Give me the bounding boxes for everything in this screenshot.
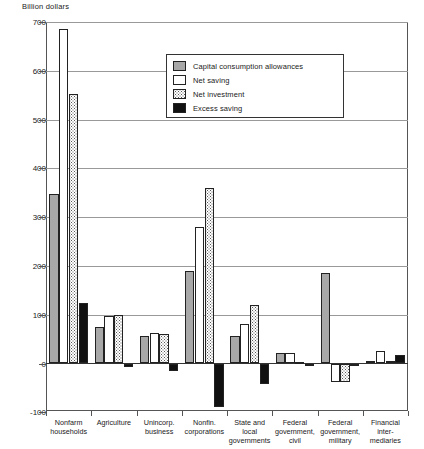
x-axis-tick-mark bbox=[318, 411, 319, 416]
bar bbox=[350, 364, 359, 366]
x-axis-tick-mark bbox=[227, 411, 228, 416]
bar bbox=[140, 336, 149, 364]
legend-item-capital-consumption-allowances: Capital consumption allowances bbox=[173, 59, 343, 73]
bar bbox=[305, 364, 314, 366]
bar bbox=[159, 334, 168, 363]
bar bbox=[150, 333, 159, 364]
y-axis-tick-mark bbox=[39, 266, 46, 267]
x-axis-labels-group: Nonfarm householdsAgricultureUnincorp. b… bbox=[46, 418, 408, 449]
bar bbox=[240, 324, 249, 363]
bar bbox=[230, 336, 239, 364]
y-axis-tick-mark bbox=[39, 71, 46, 72]
y-axis-tick-mark bbox=[39, 22, 46, 23]
bar bbox=[49, 194, 58, 363]
bar bbox=[185, 271, 194, 364]
bar bbox=[321, 273, 330, 363]
bar bbox=[366, 361, 375, 363]
x-axis-tick-mark bbox=[137, 411, 138, 416]
bar bbox=[386, 361, 395, 363]
bar bbox=[205, 188, 214, 364]
y-axis-tick-mark bbox=[39, 364, 46, 365]
x-axis-category-label: Financial inter- mediaries bbox=[359, 418, 412, 445]
y-axis-tick-mark bbox=[39, 168, 46, 169]
bar bbox=[169, 364, 178, 371]
bar bbox=[95, 327, 104, 364]
legend-label: Capital consumption allowances bbox=[193, 62, 303, 71]
legend-swatch-icon-net-saving bbox=[173, 75, 186, 85]
y-axis-tick-mark bbox=[39, 412, 46, 413]
legend-swatch-icon-excess-saving bbox=[173, 103, 186, 113]
x-axis-tick-mark bbox=[91, 411, 92, 416]
chart-legend: Capital consumption allowances Net savin… bbox=[166, 54, 344, 118]
x-axis-tick-mark bbox=[46, 411, 47, 416]
bar bbox=[104, 316, 113, 363]
legend-item-excess-saving: Excess saving bbox=[173, 101, 343, 115]
savings-investment-bar-chart: Billion dollars -10001002003004005006007… bbox=[0, 0, 424, 449]
bar bbox=[114, 315, 123, 364]
y-axis-tick-mark bbox=[39, 315, 46, 316]
y-axis-tick-mark bbox=[39, 217, 46, 218]
bar bbox=[59, 29, 68, 363]
y-axis-tick-mark bbox=[39, 120, 46, 121]
x-axis-tick-mark bbox=[182, 411, 183, 416]
bar bbox=[195, 227, 204, 364]
legend-swatch-icon-capital-consumption-allowances bbox=[173, 61, 186, 71]
bar bbox=[276, 353, 285, 364]
bar bbox=[69, 94, 78, 364]
bar bbox=[79, 303, 88, 364]
bar bbox=[285, 353, 294, 364]
bar bbox=[260, 364, 269, 385]
bar bbox=[124, 364, 133, 368]
x-axis-tick-mark bbox=[272, 411, 273, 416]
legend-label: Net investment bbox=[193, 90, 244, 99]
legend-label: Net saving bbox=[193, 76, 229, 85]
legend-label: Excess saving bbox=[193, 104, 242, 113]
bar bbox=[395, 355, 404, 364]
x-axis-tick-mark bbox=[363, 411, 364, 416]
bar bbox=[340, 364, 349, 383]
x-axis-tick-mark bbox=[408, 411, 409, 416]
legend-item-net-investment: Net investment bbox=[173, 87, 343, 101]
bar bbox=[214, 364, 223, 408]
legend-swatch-icon-net-investment bbox=[173, 89, 186, 99]
legend-item-net-saving: Net saving bbox=[173, 73, 343, 87]
bar bbox=[250, 305, 259, 364]
bar bbox=[295, 362, 304, 364]
bar bbox=[331, 364, 340, 383]
bar bbox=[376, 351, 385, 363]
